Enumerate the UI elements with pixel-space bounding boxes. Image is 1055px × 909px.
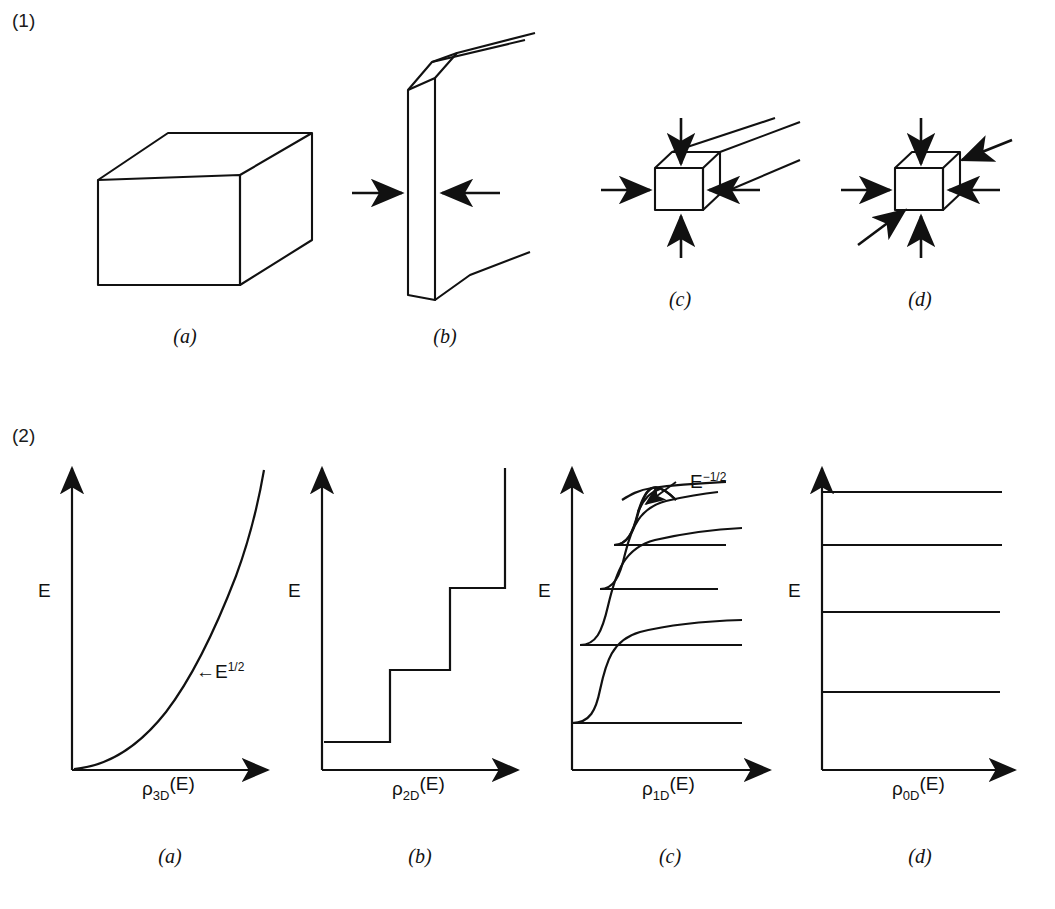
x-axis-label-3d: ρ3D(E) [142, 778, 195, 803]
panel-label-1c: (c) [650, 288, 710, 311]
y-axis-label-3d: E [38, 580, 51, 602]
annotation-e-minus-half: E−1/2 [690, 470, 726, 493]
plot-3d-curve [74, 470, 264, 769]
panel-1a-bulk-cube [98, 133, 312, 285]
panel-1b-quantum-well [408, 33, 535, 300]
x-axis-label-2d: ρ2D(E) [392, 778, 445, 803]
annotation-arrow-1d [640, 480, 686, 514]
x-axis-label-0d: ρ0D(E) [892, 778, 945, 803]
panel-label-2a: (a) [140, 845, 200, 868]
figure-canvas [0, 0, 1055, 909]
panel-label-2d: (d) [890, 845, 950, 868]
panel-1d-quantum-dot [895, 152, 960, 210]
panel-label-1b: (b) [415, 325, 475, 348]
panel-label-2c: (c) [640, 845, 700, 868]
panel-1d-confinement-arrows [841, 118, 1012, 258]
plot-1d-subbands [572, 482, 742, 723]
y-axis-label-0d: E [788, 580, 801, 602]
plot-3d-axes [72, 468, 268, 770]
y-axis-label-2d: E [288, 580, 301, 602]
panel-label-1a: (a) [155, 325, 215, 348]
plot-0d-levels [822, 492, 1002, 692]
x-axis-label-1d: ρ1D(E) [642, 778, 695, 803]
panel-1c-quantum-wire [655, 118, 800, 210]
panel-label-2b: (b) [390, 845, 450, 868]
plot-0d-axes [822, 468, 1015, 770]
annotation-e-half: ←E1/2 [196, 660, 244, 683]
plot-2d-axes [322, 468, 518, 770]
y-axis-label-1d: E [538, 580, 551, 602]
plot-2d-staircase [324, 468, 505, 742]
panel-label-1d: (d) [890, 288, 950, 311]
